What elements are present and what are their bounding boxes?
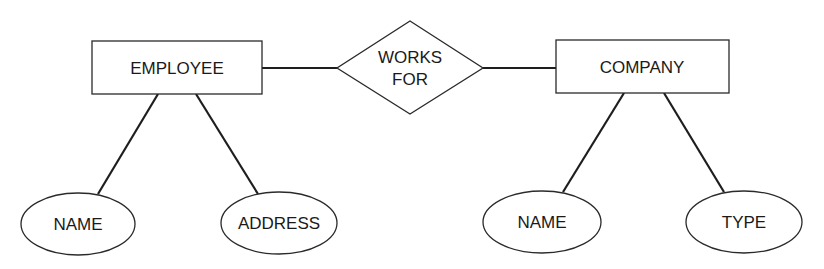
edge-company-type — [664, 93, 724, 192]
attribute-company-name: NAME — [483, 191, 601, 253]
entity-company: COMPANY — [556, 40, 729, 93]
attribute-company-name-label: NAME — [517, 213, 566, 232]
attribute-employee-address-label: ADDRESS — [238, 214, 320, 233]
attribute-employee-name: NAME — [21, 193, 135, 255]
edge-employee-address — [196, 94, 258, 194]
attribute-employee-address: ADDRESS — [221, 192, 337, 254]
relationship-works-for: WORKS FOR — [337, 21, 483, 114]
edge-company-name — [563, 93, 624, 192]
relationship-works-for-label-line1: WORKS — [378, 48, 442, 67]
attribute-company-type: TYPE — [686, 191, 802, 253]
edge-employee-name — [98, 94, 158, 194]
attribute-employee-name-label: NAME — [53, 215, 102, 234]
relationship-works-for-label-line2: FOR — [392, 70, 428, 89]
entity-company-label: COMPANY — [600, 58, 685, 77]
attribute-company-type-label: TYPE — [722, 213, 766, 232]
entity-employee-label: EMPLOYEE — [130, 59, 224, 78]
relationship-works-for-diamond — [337, 21, 483, 114]
entity-employee: EMPLOYEE — [92, 41, 262, 94]
er-diagram: EMPLOYEE WORKS FOR COMPANY NAME ADDRESS … — [0, 0, 824, 269]
